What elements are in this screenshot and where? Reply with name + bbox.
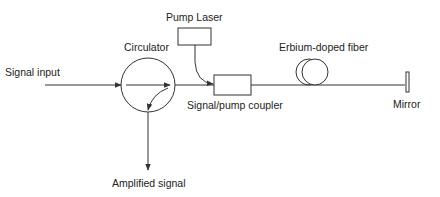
amplified-signal-label: Amplified signal (112, 178, 186, 189)
erbium-fiber-label: Erbium-doped fiber (279, 42, 368, 53)
pump-feed-line (195, 45, 213, 84)
signal-input-label: Signal input (5, 67, 60, 78)
coupler-label: Signal/pump coupler (187, 100, 283, 111)
circulator-return-arrow (148, 88, 168, 110)
mirror-label: Mirror (393, 99, 420, 110)
coupler-box (214, 75, 251, 95)
pump-laser-box (178, 28, 211, 45)
circulator-label: Circulator (124, 42, 169, 53)
erbium-fiber-coil-front (302, 59, 328, 85)
pump-laser-label: Pump Laser (166, 12, 223, 23)
mirror (406, 72, 409, 92)
